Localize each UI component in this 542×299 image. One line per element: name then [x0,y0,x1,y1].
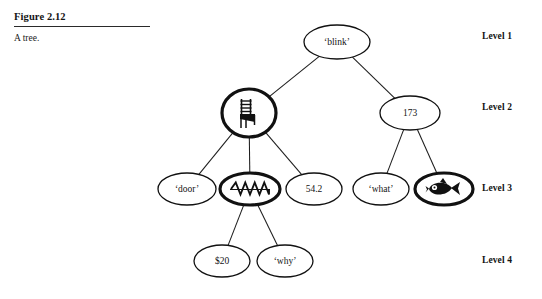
tree-edge [258,204,278,245]
node-label: ‘blink’ [324,37,350,47]
node-label: ‘why’ [274,256,297,266]
tree-node[interactable]: $20 [194,245,250,277]
node-label: $20 [215,256,230,266]
node-label: 173 [403,108,418,118]
level-label-3: Level 3 [482,183,512,193]
node-outline [222,89,276,137]
tree-node[interactable]: ‘what’ [353,173,409,205]
node-label: 54.2 [306,184,323,194]
tree-node[interactable] [415,173,473,205]
node-label: ‘what’ [369,184,394,194]
tree-node[interactable] [222,89,276,137]
level-label-1: Level 1 [482,31,512,41]
node-layer: ‘blink’173‘door’54.2‘what’$20‘why’ [158,25,473,277]
tree-edge [265,132,301,175]
tree-node[interactable]: 54.2 [286,173,342,205]
tree-node[interactable]: ‘door’ [158,173,216,205]
tree-edge [387,130,404,174]
tree-node[interactable] [220,173,280,205]
tree-node[interactable]: ‘blink’ [304,25,370,59]
level-label-2: Level 2 [482,102,512,112]
node-label: ‘door’ [175,184,199,194]
tree-edge [269,56,319,97]
tree-diagram: ‘blink’173‘door’54.2‘what’$20‘why’ [0,0,542,299]
tree-edge [352,57,394,98]
tree-edge [417,129,437,173]
edge-layer [199,56,437,245]
level-label-4: Level 4 [482,255,512,265]
tree-node[interactable]: 173 [380,96,440,130]
tree-node[interactable]: ‘why’ [257,245,313,277]
tree-edge [228,205,244,246]
tree-edge [199,132,233,174]
